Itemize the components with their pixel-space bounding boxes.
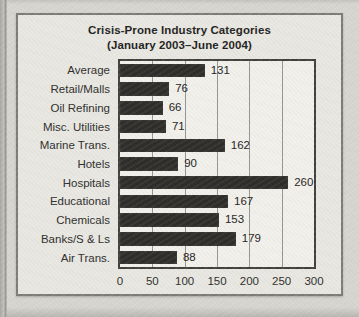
category-label: Misc. Utilities — [18, 117, 118, 136]
bar-educational — [120, 195, 228, 209]
scan-edge-top-shadow — [0, 0, 359, 4]
bar-oil-refining — [120, 101, 163, 115]
bar-average — [120, 64, 205, 78]
value-label: 153 — [225, 213, 244, 227]
x-tick-100: 100 — [175, 273, 194, 289]
category-label: Hotels — [18, 155, 118, 174]
x-tick-200: 200 — [240, 273, 259, 289]
bar-air-trans — [120, 251, 177, 265]
x-axis-tick-labels: 050100150200250300 — [120, 273, 314, 289]
bar-chemicals — [120, 213, 219, 227]
x-tick-150: 150 — [207, 273, 226, 289]
category-label: Air Trans. — [18, 248, 118, 267]
bar-hotels — [120, 157, 178, 171]
category-label: Chemicals — [18, 211, 118, 230]
category-label: Retail/Malls — [18, 80, 118, 99]
value-label: 76 — [175, 82, 188, 96]
category-label: Hospitals — [18, 173, 118, 192]
category-label: Educational — [18, 192, 118, 211]
bar-retail-malls — [120, 82, 169, 96]
bar-hospitals — [120, 176, 288, 190]
chart-title-block: Crisis-Prone Industry Categories (Januar… — [18, 23, 341, 53]
gridline-x-250 — [282, 61, 283, 267]
x-tick-0: 0 — [117, 273, 123, 289]
value-label: 90 — [184, 157, 197, 171]
value-label: 88 — [183, 251, 196, 265]
value-label: 71 — [172, 120, 185, 134]
value-label: 131 — [211, 64, 230, 78]
scan-edge-bottom-shadow — [0, 307, 359, 317]
scan-edge-left-binding-shadow — [0, 0, 7, 317]
plot-area: 1317666711629026016715317988 — [118, 59, 316, 269]
chart-title: Crisis-Prone Industry Categories — [18, 23, 341, 38]
bar-misc-utilities — [120, 120, 166, 134]
x-tick-300: 300 — [304, 273, 323, 289]
category-label: Oil Refining — [18, 98, 118, 117]
value-label: 179 — [242, 232, 261, 246]
bar-banks-s-ls — [120, 232, 236, 246]
category-label: Banks/S & Ls — [18, 230, 118, 249]
y-axis-category-labels: AverageRetail/MallsOil RefiningMisc. Uti… — [18, 61, 118, 267]
value-label: 167 — [234, 195, 253, 209]
x-tick-250: 250 — [272, 273, 291, 289]
value-label: 66 — [169, 101, 182, 115]
value-label: 260 — [294, 176, 313, 190]
x-tick-50: 50 — [146, 273, 159, 289]
chart-subtitle: (January 2003–June 2004) — [18, 38, 341, 53]
chart-panel: Crisis-Prone Industry Categories (Januar… — [16, 13, 343, 296]
value-label: 162 — [231, 139, 250, 153]
category-label: Marine Trans. — [18, 136, 118, 155]
bar-marine-trans — [120, 139, 225, 153]
category-label: Average — [18, 61, 118, 80]
